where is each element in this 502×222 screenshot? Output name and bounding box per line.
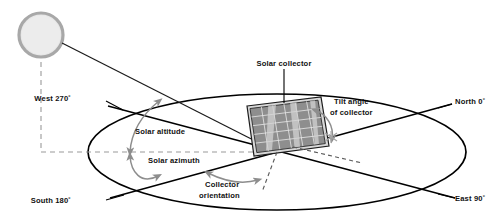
label-tilt-angle-line1: Tilt angle <box>334 97 369 106</box>
label-solar-collector: Solar collector <box>256 59 311 68</box>
label-west: West 270˚ <box>34 94 71 103</box>
label-collector-orientation-line2: orientation <box>199 191 240 200</box>
sun <box>19 13 63 57</box>
label-south: South 180˚ <box>31 196 72 205</box>
label-east: East 90˚ <box>455 194 486 203</box>
north-label-leader <box>438 104 452 108</box>
east-label-leader <box>438 194 455 198</box>
label-solar-altitude: Solar altitude <box>135 127 185 136</box>
label-tilt-angle-line2: of collector <box>330 108 373 117</box>
solar-collector-panel <box>247 97 329 156</box>
label-north: North 0˚ <box>455 97 486 106</box>
south-label-leader <box>106 195 124 200</box>
label-collector-orientation-line1: Collector <box>205 180 239 189</box>
solar-diagram: West 270˚ South 180˚ North 0˚ East 90˚ S… <box>0 0 502 222</box>
label-solar-azimuth: Solar azimuth <box>148 156 200 165</box>
diagram-canvas: West 270˚ South 180˚ North 0˚ East 90˚ S… <box>0 0 502 222</box>
